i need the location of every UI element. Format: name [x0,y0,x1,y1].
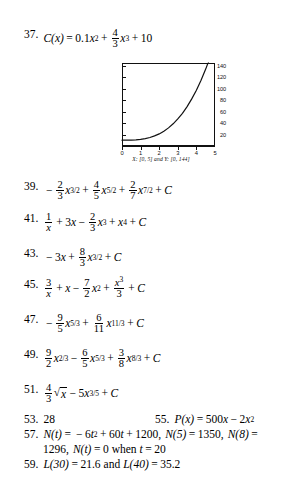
answer-entry-57: 57. N(t) = − 6t2 + 60t + 1200, N(5) = 13… [24,428,260,441]
denominator: 2 [83,289,90,300]
variable: x [127,352,132,365]
fraction: 95 [56,313,63,335]
integration-constant: C [138,216,146,229]
curve-plot [122,63,215,146]
answer-entry-41: 41. 1x + 3x − 23 x3 + x4 + C [24,212,146,234]
function-name: P(x) [174,413,194,426]
denominator: 11 [93,324,105,335]
denominator: 5 [93,191,100,202]
value: 1350 [198,428,221,441]
answer-expression-55: P(x) = 500x − 2x2 [174,413,254,426]
function-eval: N(8) [228,428,249,441]
plus-sign: + [99,387,111,400]
fraction: x33 [114,278,124,300]
x-tick-mark-4 [196,146,197,150]
comma: , [66,443,70,456]
equals-sign: = [91,443,103,456]
function-name: N(t) [43,428,62,441]
answer-value-53: 28 [43,413,55,426]
answer-expression-47: − 95 x5/3 + 611 x11/3 + C [43,313,143,335]
square-root: √x [54,386,67,401]
answer-expression-39: − 23 x3/2 + 45 x5/2 + 27 x7/2 + C [43,180,172,202]
comma: , [158,428,162,441]
graph-range-caption: X: [0, 5] and Y: [0, 144] [96,156,226,162]
minus-sign: − [70,282,82,295]
minus-sign: − [68,352,80,365]
minus-sign: − [76,216,88,229]
denominator: 3 [89,223,96,234]
constant: 1200 [135,428,158,441]
radicand: x [60,387,67,401]
answer-entry-57-continuation: 1296, N(t) = 0 when t = 20 [43,443,166,456]
denominator: 8 [118,359,125,370]
plus-sign: + [124,428,136,441]
answer-expression-43: − 3x + 83 x3/2 + C [43,247,121,269]
equals-sign: = [149,458,161,471]
variable: x [106,317,111,330]
plus-sign: + [126,282,138,295]
fraction: 27 [129,180,136,202]
denominator: 5 [81,359,88,370]
plus-sign: + [54,282,66,295]
answer-entry-37: 37. C(x) = 0.1x2 + 43 x3 + 10 [24,28,152,50]
plus-sign: + [129,32,141,45]
comma: , [221,428,225,441]
plus-sign: + [102,251,114,264]
equals-sign: = [186,428,198,441]
fraction: 3x [45,278,52,300]
fraction: 92 [45,348,52,370]
plus-sign: + [80,317,92,330]
variable: x [87,251,92,264]
coefficient: 60 [109,428,121,441]
plus-sign: + [153,184,165,197]
constant: 10 [141,32,153,45]
fraction: 23 [89,212,96,234]
function-eval: L(40) [123,458,149,471]
plus-sign: + [127,216,139,229]
answer-expression-41: 1x + 3x − 23 x3 + x4 + C [43,212,146,234]
denominator: 2 [45,359,52,370]
answer-entry-49: 49. 92 x2/3 − 65 x5/3 + 38 x8/3 + C [24,348,160,370]
answer-number-45: 45. [24,278,38,291]
denominator: 3 [112,39,119,50]
answer-expression-37: C(x) = 0.1x2 + 43 x3 + 10 [43,28,152,50]
answer-number-57: 57. [24,428,38,441]
value: 0 [103,443,109,456]
answer-expression-49: 92 x2/3 − 65 x5/3 + 38 x8/3 + C [43,348,160,370]
minus-sign: − [73,428,85,441]
integration-constant: C [137,282,145,295]
numerator-exponent: 3 [120,274,124,283]
answer-expression-45: 3x + x − 72 x2 + x33 + C [43,278,145,300]
fraction: 83 [79,247,86,269]
value: 35.2 [160,458,180,471]
plus-sign: + [116,184,128,197]
integration-constant: C [111,387,119,400]
answer-number-43: 43. [24,247,38,260]
coefficient: 500 [206,413,223,426]
plus-sign: + [99,32,111,45]
answer-number-39: 39. [24,180,38,193]
value: 20 [154,443,166,456]
fraction: 65 [81,348,88,370]
minus-sign: − [43,317,55,330]
answer-number-59: 59. [24,458,38,471]
variable: x [102,184,107,197]
equals-sign: = [64,32,76,45]
x-tick-mark-2 [159,146,160,150]
answer-entry-43: 43. − 3x + 83 x3/2 + C [24,247,121,269]
answer-entry-55: 55. P(x) = 500x − 2x2 [155,413,254,426]
plus-sign: + [66,251,78,264]
function-eval: N(5) [165,428,186,441]
expr-lhs: C(x) [43,32,63,45]
answer-expression-51: 43 √x − 5x3/5 + C [43,383,118,405]
minus-sign: − [43,184,55,197]
answer-expression-57-line1: N(t) = − 6t2 + 60t + 1200, N(5) = 1350, … [43,428,260,441]
plus-sign: + [125,317,137,330]
when-word: when [112,443,137,456]
answer-number-49: 49. [24,348,38,361]
answer-entry-51: 51. 43 √x − 5x3/5 + C [24,383,118,405]
fraction: 23 [56,180,63,202]
plus-sign: + [101,282,113,295]
value: 21.6 [80,458,100,471]
denominator: 3 [79,258,86,269]
